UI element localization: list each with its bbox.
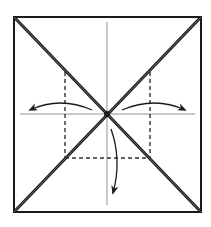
- center-point: [104, 111, 110, 117]
- origami-diagram: [0, 0, 211, 227]
